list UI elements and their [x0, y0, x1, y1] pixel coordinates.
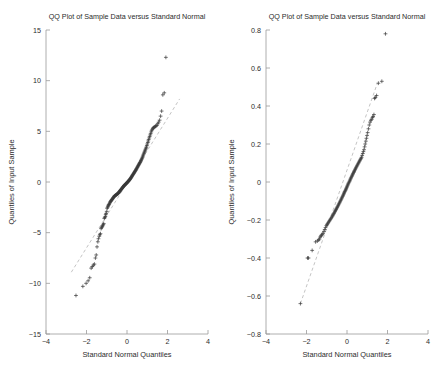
- x-tick-label: 0: [345, 337, 349, 346]
- y-axis-label: Quantiles of Input Sample: [7, 139, 16, 224]
- x-tick-label: −2: [302, 337, 310, 346]
- x-tick-label: 2: [166, 337, 170, 346]
- y-tick-label: 0.6: [251, 64, 261, 73]
- data-point-marker: [314, 240, 318, 244]
- y-tick-label: −15: [29, 330, 41, 339]
- data-point-marker: [164, 55, 168, 59]
- data-point-marker: [365, 134, 369, 138]
- y-axis-label: Quantiles of Input Sample: [227, 139, 236, 224]
- x-tick-label: 4: [426, 337, 430, 346]
- y-tick-label: −5: [33, 228, 41, 237]
- qq-plot-left-canvas: QQ Plot of Sample Data versus Standard N…: [0, 0, 220, 379]
- y-tick-label: −0.8: [247, 330, 261, 339]
- qq-plot-right-canvas: QQ Plot of Sample Data versus Standard N…: [220, 0, 440, 379]
- data-point-marker: [94, 256, 98, 260]
- y-tick-label: −10: [29, 279, 41, 288]
- qq-plot-panel-left: QQ Plot of Sample Data versus Standard N…: [0, 0, 220, 379]
- y-tick-label: 0.4: [251, 102, 261, 111]
- data-point-marker: [361, 152, 365, 156]
- chart-title: QQ Plot of Sample Data versus Standard N…: [269, 12, 426, 21]
- data-point-marker: [363, 142, 367, 146]
- data-point-marker: [367, 123, 371, 127]
- data-point-marker: [362, 150, 366, 154]
- x-tick-label: −4: [262, 337, 270, 346]
- data-points-group: [74, 55, 168, 297]
- data-point-marker: [159, 114, 163, 118]
- qq-plot-figure: QQ Plot of Sample Data versus Standard N…: [0, 0, 440, 379]
- data-point-marker: [84, 281, 88, 285]
- data-point-marker: [310, 249, 314, 253]
- data-point-marker: [365, 136, 369, 140]
- data-point-marker: [367, 127, 371, 131]
- x-axis-label: Standard Normal Quantiles: [82, 350, 171, 359]
- y-tick-label: 0: [37, 178, 41, 187]
- x-tick-label: 2: [386, 337, 390, 346]
- qq-plot-panel-right: QQ Plot of Sample Data versus Standard N…: [220, 0, 440, 379]
- data-point-marker: [373, 97, 377, 101]
- data-point-marker: [364, 139, 368, 143]
- chart-title: QQ Plot of Sample Data versus Standard N…: [49, 12, 206, 21]
- y-tick-label: 0: [257, 178, 261, 187]
- x-tick-label: 0: [125, 337, 129, 346]
- y-tick-label: 5: [37, 127, 41, 136]
- data-point-marker: [97, 237, 101, 241]
- x-tick-label: −2: [82, 337, 90, 346]
- y-tick-label: 15: [33, 26, 41, 35]
- data-point-marker: [380, 79, 384, 83]
- y-tick-label: −0.2: [247, 216, 261, 225]
- data-point-marker: [384, 32, 388, 36]
- data-point-marker: [81, 284, 85, 288]
- data-points-group: [299, 32, 388, 306]
- x-tick-label: 4: [206, 337, 210, 346]
- y-tick-label: 10: [33, 76, 41, 85]
- data-point-marker: [160, 109, 164, 113]
- data-point-marker: [94, 253, 98, 257]
- data-point-marker: [74, 294, 78, 298]
- data-point-marker: [362, 148, 366, 152]
- y-tick-label: 0.2: [251, 140, 261, 149]
- data-point-marker: [95, 245, 99, 249]
- data-point-marker: [363, 145, 367, 149]
- reference-line: [300, 83, 377, 303]
- data-point-marker: [299, 302, 303, 306]
- axis-spines: [266, 30, 428, 334]
- y-tick-label: 0.8: [251, 26, 261, 35]
- data-point-marker: [96, 240, 100, 244]
- x-axis-label: Standard Normal Quantiles: [302, 350, 391, 359]
- data-point-marker: [366, 131, 370, 135]
- x-tick-label: −4: [42, 337, 50, 346]
- y-tick-label: −0.6: [247, 292, 261, 301]
- y-tick-label: −0.4: [247, 254, 261, 263]
